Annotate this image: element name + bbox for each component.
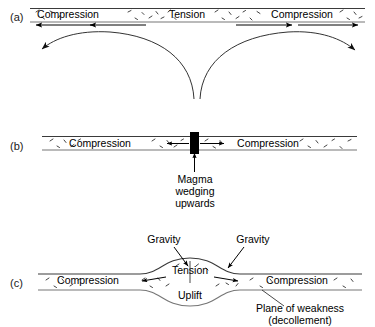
- panel-a-label-tension: Tension: [169, 8, 205, 20]
- panel-b-band: Compression Compression: [42, 132, 357, 154]
- panel-c-label-compression-left: Compression: [57, 274, 119, 286]
- three-panel-cross-section-diagram: (a) C: [0, 0, 375, 327]
- plane-of-weakness-line-2: (decollement): [268, 314, 332, 326]
- panel-a-label-compression-right: Compression: [271, 8, 333, 20]
- gravity-left-label: Gravity: [147, 233, 181, 245]
- uplift-label: Uplift: [178, 289, 202, 301]
- left-convection-curve: [42, 32, 194, 99]
- panel-a-label: (a): [10, 11, 23, 23]
- panel-a-band: Compression Tension Compression: [30, 8, 365, 22]
- geology-figure: (a) C: [0, 0, 375, 327]
- panel-c: (c): [10, 233, 362, 326]
- magma-annotation-line-1: Magma: [177, 173, 212, 185]
- panel-b-label: (b): [10, 140, 23, 152]
- panel-a-label-compression-left: Compression: [37, 8, 99, 20]
- plane-of-weakness-line-1: Plane of weakness: [256, 302, 344, 314]
- gravity-right-leader: [228, 247, 244, 268]
- panel-b: (b) C: [10, 132, 357, 209]
- panel-b-label-compression-left: Compression: [69, 137, 131, 149]
- right-convection-curve: [200, 32, 355, 99]
- magma-annotation-line-2: wedging: [174, 185, 214, 197]
- panel-c-label: (c): [10, 277, 23, 289]
- magma-dike: [190, 132, 199, 154]
- panel-a: (a) C: [10, 8, 365, 99]
- panel-a-flow-curves: [42, 32, 355, 99]
- magma-annotation-line-3: upwards: [175, 197, 215, 209]
- panel-c-plane-of-weakness: Plane of weakness (decollement): [256, 290, 344, 326]
- panel-c-gravity-right: Gravity: [228, 233, 270, 268]
- panel-b-magma-annotation: Magma wedging upwards: [174, 153, 214, 209]
- panel-c-label-compression-right: Compression: [266, 274, 328, 286]
- panel-b-label-compression-right: Compression: [237, 137, 299, 149]
- gravity-right-label: Gravity: [236, 233, 270, 245]
